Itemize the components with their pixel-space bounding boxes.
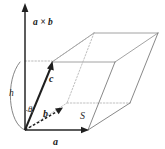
label-vector-a: a	[53, 136, 58, 147]
label-vector-b: b	[43, 108, 48, 119]
label-angle-theta: θ	[28, 104, 33, 114]
parallelepiped-diagram: a × b a b c S h θ	[0, 0, 165, 149]
label-height-h: h	[9, 88, 14, 98]
label-vector-c: c	[49, 73, 54, 84]
figure-container: a × b a b c S h θ	[0, 0, 165, 149]
label-cross-product: a × b	[33, 17, 53, 27]
label-area-s: S	[80, 110, 85, 121]
